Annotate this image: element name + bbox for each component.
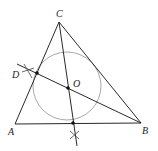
label-b: B	[142, 125, 148, 136]
label-c: C	[56, 8, 63, 19]
point-d	[35, 71, 39, 75]
label-o: O	[73, 78, 80, 89]
point-o	[66, 86, 70, 90]
point-tangent-ab	[71, 121, 75, 125]
inscribed-circle	[33, 52, 101, 120]
label-a: A	[7, 126, 15, 137]
geometry-diagram: C D O A B	[0, 0, 158, 151]
side-ab	[15, 123, 141, 124]
label-d: D	[11, 69, 20, 80]
